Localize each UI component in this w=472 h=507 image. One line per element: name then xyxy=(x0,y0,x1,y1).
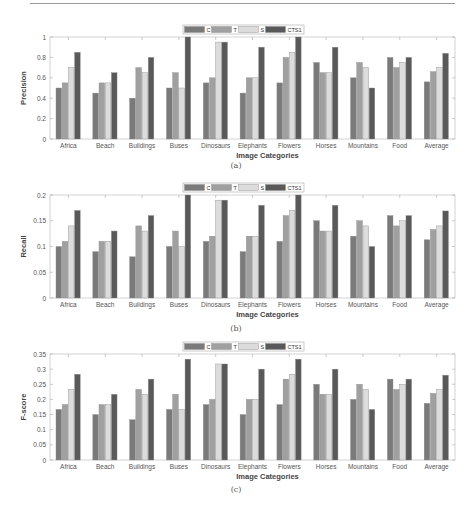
chart-panel-recall: 00.050.10.150.2RecallAfricaBeachBuilding… xyxy=(0,170,472,340)
y-axis-label: F-score xyxy=(19,393,28,420)
bar-t xyxy=(209,78,215,139)
y-tick-label: 0 xyxy=(42,457,46,464)
bar-t xyxy=(173,231,179,298)
bar-t xyxy=(357,384,363,460)
x-tick-label: Beach xyxy=(96,142,115,149)
bar-t xyxy=(320,231,326,298)
bar-s xyxy=(216,364,222,460)
bar-s xyxy=(105,83,111,139)
bar-s xyxy=(179,247,185,299)
y-tick-label: 0.1 xyxy=(37,243,46,250)
legend-swatch-s xyxy=(239,185,259,191)
x-tick-label: Buses xyxy=(170,301,189,308)
bar-c xyxy=(56,247,62,299)
bar-t xyxy=(320,394,326,460)
y-axis-label: Precision xyxy=(19,71,28,105)
bar-c xyxy=(93,415,99,460)
x-axis-label: Image Categories xyxy=(236,310,299,319)
x-tick-label: Dinosaurs xyxy=(201,463,231,470)
chart-panel-fscore: 00.050.10.150.20.250.30.35F-scoreAfricaB… xyxy=(0,335,472,507)
bar-s xyxy=(400,63,406,140)
x-tick-label: Average xyxy=(425,463,449,471)
bar-c xyxy=(56,88,62,139)
bar-cts1 xyxy=(369,88,375,139)
bar-t xyxy=(283,57,289,139)
bar-cts1 xyxy=(443,53,449,139)
bar-c xyxy=(240,93,246,139)
x-tick-label: Food xyxy=(392,463,407,470)
bar-s xyxy=(400,221,406,298)
bar-t xyxy=(136,389,142,460)
bar-t xyxy=(99,405,105,460)
legend-label-cts1: CTS1 xyxy=(288,344,302,350)
bar-c xyxy=(387,57,393,139)
y-tick-label: 0 xyxy=(42,295,46,302)
bar-c xyxy=(130,420,136,460)
legend-swatch-t xyxy=(212,344,232,350)
x-tick-label: Buses xyxy=(170,142,189,149)
bar-cts1 xyxy=(148,216,154,298)
bar-t xyxy=(62,83,68,139)
bar-t xyxy=(246,78,252,139)
bar-t xyxy=(394,226,400,298)
bar-t xyxy=(394,389,400,460)
bar-s xyxy=(142,73,148,139)
bar-c xyxy=(314,221,320,298)
bar-cts1 xyxy=(406,57,412,139)
bar-c xyxy=(56,409,62,460)
bar-cts1 xyxy=(222,42,228,139)
bar-t xyxy=(173,73,179,139)
bar-s xyxy=(253,78,259,139)
x-tick-label: Elephants xyxy=(238,142,268,150)
bar-s xyxy=(216,200,222,298)
bar-t xyxy=(320,73,326,139)
y-tick-label: 0.2 xyxy=(37,192,46,199)
x-tick-label: Dinosaurs xyxy=(201,301,231,308)
x-tick-label: Buildings xyxy=(129,142,156,150)
caption-b: (b) xyxy=(0,324,472,333)
x-axis-label: Image Categories xyxy=(236,151,299,160)
bar-t xyxy=(430,230,436,298)
bar-cts1 xyxy=(369,409,375,460)
legend-swatch-s xyxy=(239,27,259,33)
bar-t xyxy=(283,216,289,298)
bar-c xyxy=(314,384,320,460)
bar-cts1 xyxy=(443,375,449,460)
y-tick-label: 0.25 xyxy=(33,381,46,388)
bar-s xyxy=(363,68,369,139)
bar-c xyxy=(93,93,99,139)
bar-cts1 xyxy=(443,211,449,298)
bar-t xyxy=(62,405,68,460)
legend: CTSCTS1 xyxy=(183,342,304,351)
bar-c xyxy=(314,63,320,140)
y-tick-label: 0.2 xyxy=(37,396,46,403)
bar-s xyxy=(289,374,295,460)
y-tick-label: 0.05 xyxy=(33,269,46,276)
bar-cts1 xyxy=(259,47,265,139)
bar-c xyxy=(424,82,430,139)
bar-c xyxy=(166,409,172,460)
bar-t xyxy=(357,221,363,298)
y-tick-label: 0.2 xyxy=(37,115,46,122)
legend-swatch-t xyxy=(212,185,232,191)
bar-cts1 xyxy=(75,52,81,139)
bar-t xyxy=(246,399,252,460)
caption-c: (c) xyxy=(0,485,472,494)
bar-cts1 xyxy=(332,369,338,460)
bar-t xyxy=(430,72,436,139)
legend-swatch-cts1 xyxy=(266,344,286,350)
x-tick-label: Mountains xyxy=(348,301,379,308)
x-tick-label: Africa xyxy=(60,301,77,308)
bar-s xyxy=(68,389,74,460)
bar-s xyxy=(289,52,295,139)
bar-c xyxy=(424,403,430,460)
chart-panel-precision: 00.20.40.60.81PrecisionAfricaBeachBuildi… xyxy=(0,0,472,170)
y-tick-label: 0.05 xyxy=(33,441,46,448)
bar-t xyxy=(173,394,179,460)
bar-cts1 xyxy=(185,359,191,460)
legend-label-c: C xyxy=(207,185,211,191)
bar-cts1 xyxy=(111,73,117,139)
y-tick-label: 0.15 xyxy=(33,411,46,418)
bar-s xyxy=(437,68,443,139)
bar-cts1 xyxy=(148,379,154,460)
